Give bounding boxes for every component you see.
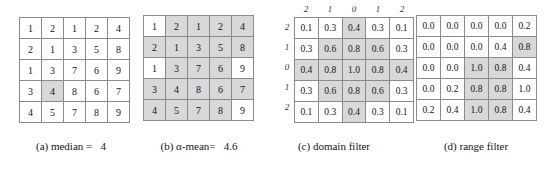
matrix-body: 0.00.00.00.00.20.00.00.00.40.80.00.01.00… bbox=[416, 15, 537, 121]
matrix-cell-highlighted: 4 bbox=[166, 79, 188, 100]
row-label: 1 bbox=[280, 77, 294, 97]
matrix-cell-highlighted: 2 bbox=[166, 16, 188, 37]
matrix-cell: 1 bbox=[144, 16, 166, 37]
matrix-row: 34867 bbox=[20, 81, 130, 102]
matrix-cell-highlighted: 4 bbox=[232, 16, 254, 37]
matrix-cell-highlighted: 0.4 bbox=[295, 60, 319, 81]
matrix-cell: 7 bbox=[64, 60, 86, 81]
column-label: 0 bbox=[342, 2, 366, 17]
matrix-cell-highlighted: 0.8 bbox=[366, 60, 390, 81]
matrix-cell: 2 bbox=[86, 18, 108, 39]
row-label-column: 21012 bbox=[280, 17, 294, 123]
matrix-cell-highlighted: 0.6 bbox=[366, 81, 390, 102]
matrix-cell: 0.0 bbox=[417, 37, 441, 58]
matrix-cell-highlighted: 2 bbox=[144, 37, 166, 58]
matrix-cell-highlighted: 4 bbox=[42, 81, 64, 102]
matrix-wrap-b: 1212421358137693486745789 bbox=[143, 15, 254, 121]
matrix-cell-highlighted: 0.6 bbox=[366, 39, 390, 60]
matrix-cell: 6 bbox=[86, 60, 108, 81]
caption-d: (d) range filter bbox=[406, 140, 546, 152]
matrix-d: 0.00.00.00.00.20.00.00.00.40.80.00.01.00… bbox=[416, 15, 537, 121]
matrix-row: 12124 bbox=[20, 18, 130, 39]
matrix-cell-highlighted: 4 bbox=[144, 100, 166, 121]
matrix-cell-highlighted: 3 bbox=[166, 58, 188, 79]
matrix-row: 13769 bbox=[144, 58, 254, 79]
matrix-cell: 0.0 bbox=[417, 16, 441, 37]
matrix-cell: 7 bbox=[64, 102, 86, 123]
matrix-cell: 0.4 bbox=[441, 100, 465, 121]
matrix-cell-highlighted: 5 bbox=[210, 37, 232, 58]
matrix-cell-highlighted: 0.6 bbox=[318, 81, 342, 102]
matrix-cell: 0.3 bbox=[295, 81, 319, 102]
matrix-cell-highlighted: 6 bbox=[210, 58, 232, 79]
matrix-row: 0.10.30.40.30.1 bbox=[295, 102, 414, 123]
matrix-cell: 0.0 bbox=[465, 16, 489, 37]
matrix-cell-highlighted: 3 bbox=[144, 79, 166, 100]
matrix-cell: 0.2 bbox=[441, 79, 465, 100]
matrix-a: 1212421358137693486745789 bbox=[19, 17, 130, 123]
matrix-row: 0.00.20.80.81.0 bbox=[417, 79, 537, 100]
matrix-b: 1212421358137693486745789 bbox=[143, 15, 254, 121]
matrix-cell: 5 bbox=[42, 102, 64, 123]
panel-a-median: 1212421358137693486745789 (a) median = 4 bbox=[8, 0, 134, 171]
matrix-cell: 8 bbox=[108, 39, 130, 60]
matrix-cell-highlighted: 1.0 bbox=[342, 60, 366, 81]
column-label: 2 bbox=[294, 2, 318, 17]
matrix-cell: 1 bbox=[64, 18, 86, 39]
matrix-cell-highlighted: 8 bbox=[188, 79, 210, 100]
matrix-cell: 0.4 bbox=[513, 58, 537, 79]
matrix-row: 12124 bbox=[144, 16, 254, 37]
caption-c: (c) domain filter bbox=[264, 140, 404, 152]
matrix-cell: 0.0 bbox=[441, 16, 465, 37]
matrix-row: 0.00.00.00.00.2 bbox=[417, 16, 537, 37]
matrix-cell: 0.3 bbox=[295, 39, 319, 60]
matrix-row: 34867 bbox=[144, 79, 254, 100]
matrix-cell: 0.0 bbox=[441, 58, 465, 79]
matrix-cell: 0.1 bbox=[295, 18, 319, 39]
matrix-cell-highlighted: 2 bbox=[210, 16, 232, 37]
matrix-row: 0.40.81.00.80.4 bbox=[295, 60, 414, 81]
matrix-cell: 5 bbox=[86, 39, 108, 60]
matrix-row: 13769 bbox=[20, 60, 130, 81]
matrix-cell-highlighted: 5 bbox=[166, 100, 188, 121]
matrix-cell: 0.0 bbox=[489, 16, 513, 37]
panel-b-alpha-mean: 1212421358137693486745789 (b) α-mean= 4.… bbox=[136, 0, 262, 171]
matrix-cell-highlighted: 0.8 bbox=[489, 100, 513, 121]
matrix-cell: 0.3 bbox=[366, 102, 390, 123]
matrix-cell: 8 bbox=[86, 102, 108, 123]
matrix-cell: 0.0 bbox=[441, 37, 465, 58]
matrix-cell-highlighted: 3 bbox=[188, 37, 210, 58]
matrix-cell-highlighted: 6 bbox=[210, 79, 232, 100]
matrix-cell-highlighted: 1.0 bbox=[465, 100, 489, 121]
matrix-cell-highlighted: 7 bbox=[188, 100, 210, 121]
matrix-cell: 0.3 bbox=[366, 18, 390, 39]
matrix-cell: 6 bbox=[86, 81, 108, 102]
panel-d-range-filter: 0.00.00.00.00.20.00.00.00.40.80.00.01.00… bbox=[406, 0, 546, 171]
matrix-cell: 2 bbox=[42, 18, 64, 39]
matrix-row: 45789 bbox=[144, 100, 254, 121]
matrix-cell-highlighted: 0.8 bbox=[318, 60, 342, 81]
matrix-cell-highlighted: 1.0 bbox=[465, 58, 489, 79]
matrix-cell: 3 bbox=[64, 39, 86, 60]
matrix-cell: 0.3 bbox=[318, 18, 342, 39]
matrix-cell: 0.3 bbox=[318, 102, 342, 123]
matrix-cell-highlighted: 0.8 bbox=[489, 79, 513, 100]
matrix-cell: 4 bbox=[20, 102, 42, 123]
matrix-cell-highlighted: 8 bbox=[210, 100, 232, 121]
matrix-c: 0.10.30.40.30.10.30.60.80.60.30.40.81.00… bbox=[294, 17, 414, 123]
matrix-row: 21358 bbox=[20, 39, 130, 60]
column-label-row: 21012 bbox=[294, 2, 414, 17]
caption-a: (a) median = 4 bbox=[8, 140, 134, 152]
matrix-cell: 1 bbox=[20, 18, 42, 39]
matrix-cell: 8 bbox=[64, 81, 86, 102]
matrix-row: 0.00.01.00.80.4 bbox=[417, 58, 537, 79]
matrix-cell: 0.4 bbox=[513, 100, 537, 121]
matrix-cell-highlighted: 0.8 bbox=[342, 39, 366, 60]
matrix-cell-highlighted: 0.8 bbox=[465, 79, 489, 100]
matrix-cell-highlighted: 0.4 bbox=[342, 102, 366, 123]
matrix-cell: 0.0 bbox=[417, 79, 441, 100]
matrix-cell: 0.4 bbox=[489, 37, 513, 58]
matrix-wrap-d: 0.00.00.00.00.20.00.00.00.40.80.00.01.00… bbox=[416, 15, 537, 121]
figure-container: 1212421358137693486745789 (a) median = 4… bbox=[0, 0, 549, 171]
matrix-body: 1212421358137693486745789 bbox=[143, 15, 254, 121]
